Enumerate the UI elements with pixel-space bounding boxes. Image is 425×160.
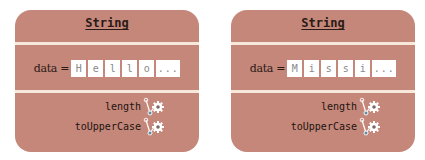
char-cell: s — [321, 60, 336, 77]
method-toUpperCase: toUpperCase — [75, 121, 143, 132]
gear-lever-icon — [143, 97, 165, 119]
char-cell: l — [105, 60, 120, 77]
method-label: toUpperCase — [291, 121, 357, 132]
char-cell: s — [338, 60, 353, 77]
divider-bottom — [231, 90, 415, 93]
method-label: length — [321, 101, 357, 112]
char-cell: l — [122, 60, 137, 77]
string-object-card-2: String data = M i s s i ... length — [231, 10, 415, 152]
char-cell: e — [88, 60, 103, 77]
char-cell-ellipsis: ... — [372, 60, 396, 77]
char-cell: i — [355, 60, 370, 77]
gear-lever-icon — [359, 117, 381, 139]
data-field-row: data = M i s s i ... — [231, 60, 415, 77]
divider-top — [15, 42, 199, 45]
char-array: M i s s i ... — [287, 60, 396, 77]
method-length: length — [321, 101, 359, 112]
data-field-label: data = — [250, 62, 286, 75]
data-field-label: data = — [34, 62, 70, 75]
gear-lever-icon — [359, 97, 381, 119]
method-toUpperCase: toUpperCase — [291, 121, 359, 132]
class-name-title: String — [231, 16, 415, 30]
char-cell: i — [304, 60, 319, 77]
gear-lever-icon — [143, 117, 165, 139]
char-cell: o — [139, 60, 154, 77]
char-cell: M — [287, 60, 302, 77]
char-cell: H — [71, 60, 86, 77]
char-cell-ellipsis: ... — [156, 60, 180, 77]
class-name-title: String — [15, 16, 199, 30]
string-object-card-1: String data = H e l l o ... length — [15, 10, 199, 152]
char-array: H e l l o ... — [71, 60, 180, 77]
method-length: length — [105, 101, 143, 112]
divider-bottom — [15, 90, 199, 93]
divider-top — [231, 42, 415, 45]
data-field-row: data = H e l l o ... — [15, 60, 199, 77]
method-label: length — [105, 101, 141, 112]
method-label: toUpperCase — [75, 121, 141, 132]
